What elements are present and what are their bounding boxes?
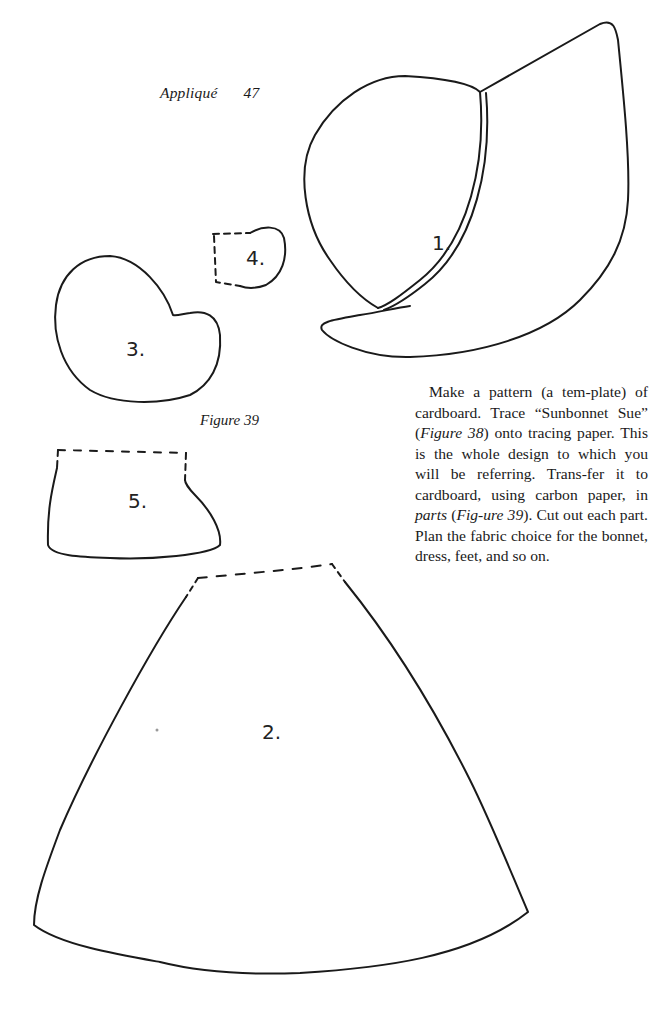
body-paragraph: Make a pattern (a tem-plate) of cardboar… [415, 382, 648, 567]
piece-label-2: 2. [262, 720, 281, 744]
figure-caption: Figure 39 [200, 412, 259, 429]
text-run: ( [447, 506, 456, 523]
piece-label-1: 1. [432, 231, 451, 255]
piece-label-4: 4. [246, 246, 265, 270]
figure-reference: Figure 38 [420, 424, 483, 441]
piece-label-3: 3. [126, 337, 145, 361]
pattern-piece-dress [34, 564, 528, 974]
figure-reference: Fig-ure 39 [456, 506, 523, 523]
piece-label-5: 5. [128, 489, 147, 513]
pattern-piece-sleeve [55, 256, 220, 402]
emphasis: parts [415, 506, 447, 523]
pattern-piece-bonnet [304, 22, 628, 357]
